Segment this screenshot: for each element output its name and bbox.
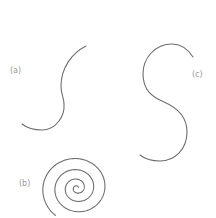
curve-c [140, 44, 193, 161]
figure-canvas: (a) (b) (c) [0, 0, 216, 218]
curves-svg [0, 0, 216, 218]
label-b: (b) [19, 180, 30, 188]
curve-a [22, 46, 86, 130]
spiral-b [43, 159, 105, 216]
label-a: (a) [10, 67, 21, 75]
label-c: (c) [192, 71, 203, 79]
